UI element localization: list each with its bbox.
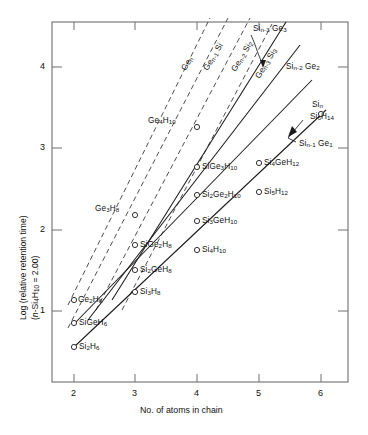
point-label-Ge4H10: Ge4H10 — [148, 117, 176, 125]
point-label-Si2H6: Si2H6 — [79, 343, 100, 351]
x-tick-label-2: 2 — [71, 388, 76, 398]
line-Si_n-2_Ge2 — [88, 45, 300, 320]
x-tick-label-3: 3 — [132, 388, 137, 398]
marker-Si3GeH10 — [194, 218, 199, 223]
marker-Si4H10 — [194, 247, 199, 252]
point-label-SiGeH6: SiGeH6 — [79, 319, 107, 327]
line-label-Si_n-1_Ge1: Sin-1 Ge1 — [299, 140, 333, 148]
line-label-Si_n-3_Ge3: Sin-3 Ge3 — [253, 25, 287, 33]
point-label-Si2GeH8: Si2GeH8 — [140, 266, 172, 274]
point-label-Ge2H6: Ge2H6 — [78, 296, 102, 304]
figure-retention-time-chart: 4 3 2 1 2 3 4 5 6 No. of atoms in chain … — [0, 0, 368, 435]
point-label-Si6H14: Si6H14 — [310, 113, 334, 121]
arrow-Si_n-3_Ge3 — [251, 35, 263, 64]
marker-Ge4H10 — [194, 124, 199, 129]
line-label-Si_n: Sin — [312, 101, 323, 109]
marker-Ge2H6 — [71, 297, 76, 302]
marker-Si3H8 — [132, 289, 137, 294]
line-label-Si_n-2_Ge2: Sin-2 Ge2 — [286, 63, 320, 71]
marker-SiGe2H8 — [132, 242, 137, 247]
line-Si_n-1_Ge1 — [74, 80, 312, 324]
point-label-Si2Ge2H10: Si2Ge2H10 — [202, 191, 241, 199]
x-axis-title: No. of atoms in chain — [140, 405, 223, 415]
point-label-Ge3H8: Ge3H8 — [95, 205, 119, 213]
marker-Si2GeH8 — [132, 267, 137, 272]
x-tick-label-6: 6 — [318, 388, 323, 398]
point-label-Si4H10: Si4H10 — [202, 246, 226, 254]
x-tick-label-5: 5 — [256, 388, 261, 398]
point-label-Si5H12: Si5H12 — [264, 188, 288, 196]
point-label-Si3GeH10: Si3GeH10 — [202, 217, 237, 225]
marker-Si2H6 — [71, 344, 76, 349]
marker-Si4GeH12 — [256, 160, 261, 165]
marker-SiGeH6 — [71, 320, 76, 325]
point-label-SiGe2H8: SiGe2H8 — [140, 241, 172, 249]
y-axis-title-line1: Log (relative retention time) — [18, 215, 28, 320]
y-axis-title-line2: (n-Si4H10 = 2.00) — [30, 256, 40, 320]
y-tick-label-3: 3 — [40, 142, 45, 152]
point-label-Si3H8: Si3H8 — [140, 288, 161, 296]
y-axis-ticks — [52, 67, 348, 311]
marker-Si2Ge2H10 — [194, 192, 199, 197]
point-label-SiGe3H10: SiGe3H10 — [202, 163, 237, 171]
y-tick-label-2: 2 — [40, 224, 45, 234]
y-tick-label-1: 1 — [40, 305, 45, 315]
marker-Si5H12 — [256, 189, 261, 194]
axis-frame — [52, 22, 348, 382]
line-Si_n — [74, 110, 326, 347]
marker-Ge3H8 — [132, 212, 137, 217]
x-axis-ticks — [74, 22, 321, 382]
y-tick-label-4: 4 — [40, 61, 45, 71]
x-tick-label-4: 4 — [194, 388, 199, 398]
marker-SiGe3H10 — [194, 164, 199, 169]
point-label-Si4GeH12: Si4GeH12 — [264, 159, 299, 167]
